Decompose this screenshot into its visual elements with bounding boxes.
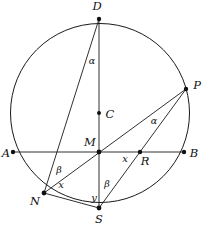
angle-label-beta-at-n: β: [56, 165, 62, 175]
point-dot-s: [97, 206, 102, 211]
angle-label-beta-at-s: β: [104, 179, 110, 189]
angle-label-alpha-at-p: α: [151, 116, 157, 126]
point-dot-b: [182, 150, 186, 154]
point-label-d: D: [92, 1, 101, 13]
point-label-p: P: [193, 80, 201, 92]
geometry-canvas: [0, 0, 208, 227]
geometry-figure: D P C A M R B N S α α β β x x y: [0, 0, 208, 227]
segment-d-n: [44, 19, 99, 193]
segment-label-x-at-mr: x: [122, 154, 128, 164]
point-dot-group: [11, 17, 188, 211]
point-dot-c: [97, 111, 101, 115]
point-dot-p: [184, 87, 188, 91]
point-dot-a: [11, 150, 15, 154]
segment-label-y-at-s: y: [91, 193, 97, 203]
point-label-n: N: [30, 196, 40, 208]
point-label-m: M: [84, 137, 96, 149]
point-label-a: A: [2, 148, 10, 160]
point-label-c: C: [106, 109, 115, 121]
segment-label-x-at-n: x: [58, 180, 64, 190]
point-dot-d: [97, 17, 101, 21]
angle-label-alpha-at-d: α: [89, 56, 95, 66]
point-dot-m: [97, 150, 102, 155]
point-label-s: S: [95, 214, 103, 226]
point-dot-n: [42, 191, 47, 196]
point-label-r: R: [141, 156, 150, 168]
segment-n-p: [44, 89, 186, 193]
point-label-b: B: [190, 148, 198, 160]
